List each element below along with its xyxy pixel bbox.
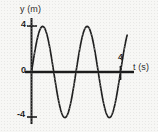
- waveform-figure: y (m) t (s) 4 0 -4 4: [0, 0, 158, 132]
- y-axis-label: y (m): [20, 5, 41, 14]
- y-tick-label-positive-4: 4: [21, 20, 26, 29]
- y-tick-label-negative-4: -4: [17, 110, 25, 119]
- y-tick-label-zero: 0: [21, 66, 26, 75]
- t-axis-label: t (s): [133, 63, 149, 72]
- t-tick-label-4: 4: [118, 53, 123, 62]
